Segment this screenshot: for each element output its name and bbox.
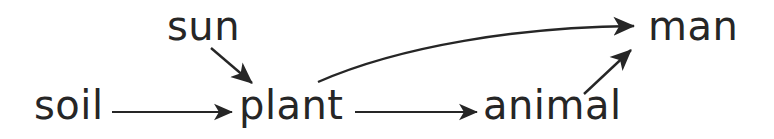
node-label-sun: sun [167,6,240,46]
node-label-man: man [648,6,738,46]
arrow-plant-to-man [318,26,634,82]
node-label-animal: animal [483,85,622,125]
arrow-sun-to-plant [211,48,252,83]
food-chain-diagram: soil sun plant animal man [0,0,774,139]
node-label-plant: plant [239,85,344,125]
node-label-soil: soil [34,85,104,125]
